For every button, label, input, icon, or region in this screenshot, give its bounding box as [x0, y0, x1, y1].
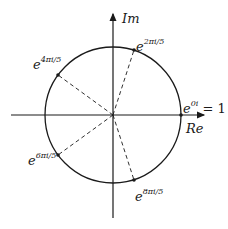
radius-2pi5	[113, 50, 134, 115]
root-label-1: e2πi/5	[136, 38, 164, 54]
real-axis-label: Re	[186, 122, 203, 135]
radius-8pi5	[113, 115, 134, 180]
radius-4pi5	[58, 75, 113, 115]
root-label-3: e6πi/5	[28, 152, 56, 168]
root-label-4: e8πi/5	[135, 188, 163, 204]
root-point-2	[56, 73, 60, 77]
unit-circle-diagram: Im Re e0i = 1 e2πi/5 e4πi/5 e6πi/5 e8πi/…	[0, 0, 228, 229]
root-point-4	[132, 178, 136, 182]
radius-6pi5	[58, 115, 113, 155]
imaginary-axis-label: Im	[122, 12, 139, 25]
root-point-3	[56, 153, 60, 157]
root-label-2: e4πi/5	[33, 56, 61, 72]
root-label-0: e0i = 1	[183, 100, 226, 116]
